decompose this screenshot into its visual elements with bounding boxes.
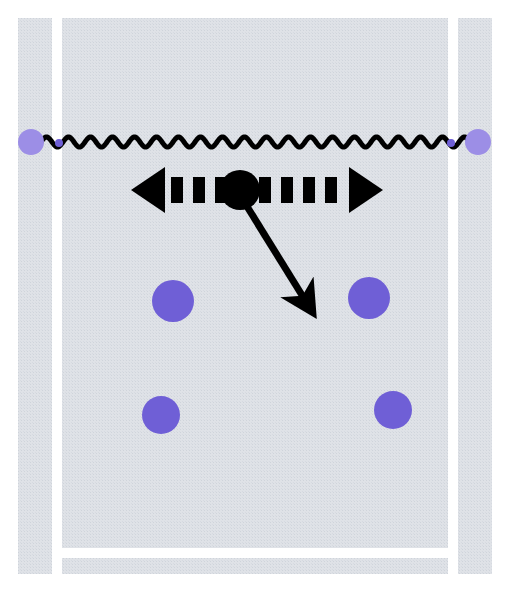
arrow-dash xyxy=(281,177,293,203)
frame-gap-right xyxy=(448,18,458,574)
left-endpoint xyxy=(18,129,44,155)
dot-top-left xyxy=(152,280,194,322)
arrow-dash xyxy=(259,177,271,203)
frame-gap-bottom xyxy=(52,548,458,558)
textured-panel-group xyxy=(18,18,492,574)
left-gap-marker xyxy=(55,139,63,147)
frame-gap-left xyxy=(52,18,62,574)
textured-panel xyxy=(18,18,492,574)
arrow-dash xyxy=(171,177,183,203)
dot-bottom-left xyxy=(142,396,180,434)
arrow-dash xyxy=(303,177,315,203)
dot-top-right xyxy=(348,277,390,319)
right-gap-marker xyxy=(447,139,455,147)
dot-bottom-right xyxy=(374,391,412,429)
hub-node xyxy=(220,170,260,210)
diagram-canvas xyxy=(0,0,509,592)
arrow-dash xyxy=(325,177,337,203)
arrow-dash xyxy=(193,177,205,203)
right-endpoint xyxy=(465,129,491,155)
diagram-svg xyxy=(0,0,509,592)
